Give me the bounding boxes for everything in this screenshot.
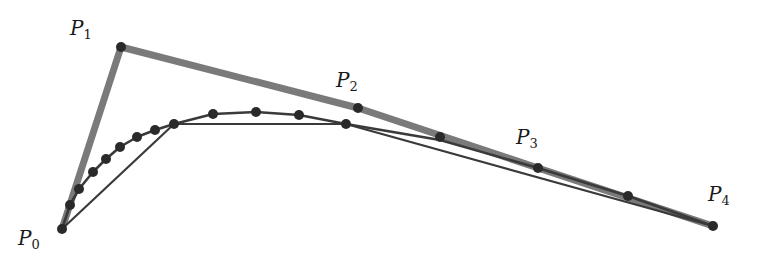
point-dot bbox=[623, 191, 633, 201]
curve-points bbox=[57, 42, 718, 234]
point-dot bbox=[116, 42, 126, 52]
point-dot bbox=[65, 200, 75, 210]
label-p3: P3 bbox=[516, 127, 538, 150]
point-dot bbox=[132, 132, 142, 142]
point-dot bbox=[341, 119, 351, 129]
point-dot bbox=[294, 110, 304, 120]
bezier-diagram: P0P1P2P3P4 bbox=[0, 0, 758, 261]
point-dot bbox=[251, 107, 261, 117]
point-dot bbox=[74, 184, 84, 194]
point-dot bbox=[708, 221, 718, 231]
diagram-canvas bbox=[0, 0, 758, 261]
point-dot bbox=[88, 167, 98, 177]
point-dot bbox=[208, 109, 218, 119]
label-p2: P2 bbox=[336, 70, 358, 93]
subdivision-polygon bbox=[62, 124, 713, 229]
point-dot bbox=[169, 119, 179, 129]
point-dot bbox=[435, 132, 445, 142]
label-p1: P1 bbox=[70, 18, 92, 41]
point-dot bbox=[57, 224, 67, 234]
point-dot bbox=[150, 125, 160, 135]
point-dot bbox=[115, 142, 125, 152]
point-dot bbox=[101, 154, 111, 164]
label-p4: P4 bbox=[708, 184, 730, 207]
point-dot bbox=[353, 103, 363, 113]
label-p0: P0 bbox=[18, 228, 40, 251]
point-dot bbox=[533, 163, 543, 173]
